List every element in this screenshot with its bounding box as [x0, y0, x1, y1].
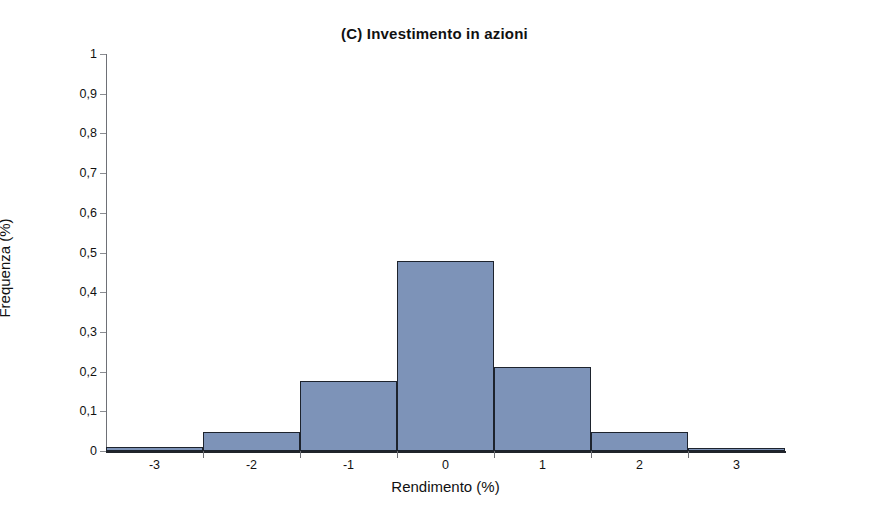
histogram-bar: [300, 381, 397, 451]
x-tick-label: -3: [149, 458, 160, 472]
histogram-bar: [688, 448, 785, 451]
x-tick-label: 2: [636, 458, 643, 472]
y-tick-mark: [100, 253, 106, 254]
y-tick-label: 0,4: [80, 285, 97, 299]
y-tick-mark: [100, 451, 106, 452]
y-tick-label: 0,9: [80, 87, 97, 101]
chart-title: (C) Investimento in azioni: [0, 25, 869, 42]
x-tick-label: 1: [539, 458, 546, 472]
x-tick-label: 0: [442, 458, 449, 472]
y-tick-label: 0,1: [80, 404, 97, 418]
x-tick-mark: [203, 451, 204, 458]
x-tick-label: -2: [246, 458, 257, 472]
x-tick-mark: [494, 451, 495, 458]
histogram-bar: [203, 432, 300, 451]
y-tick-mark: [100, 133, 106, 134]
y-tick-mark: [100, 372, 106, 373]
y-tick-label: 0,8: [80, 126, 97, 140]
x-axis-line: [106, 451, 786, 453]
y-tick-mark: [100, 173, 106, 174]
x-tick-mark: [397, 451, 398, 458]
plot-area: 00,10,20,30,40,50,60,70,80,91: [106, 54, 785, 451]
histogram-bar: [397, 261, 494, 451]
histogram-bar: [494, 367, 591, 451]
x-axis-title: Rendimento (%): [106, 478, 785, 495]
x-tick-label: 3: [733, 458, 740, 472]
y-tick-mark: [100, 213, 106, 214]
y-tick-mark: [100, 94, 106, 95]
y-tick-label: 0,3: [80, 325, 97, 339]
y-tick-label: 0,5: [80, 246, 97, 260]
x-tick-mark: [688, 451, 689, 458]
x-tick-mark: [300, 451, 301, 458]
y-tick-mark: [100, 54, 106, 55]
y-tick-mark: [100, 292, 106, 293]
x-tick-label: -1: [343, 458, 354, 472]
y-tick-mark: [100, 332, 106, 333]
histogram-bar: [591, 432, 688, 451]
y-tick-label: 0,6: [80, 206, 97, 220]
x-tick-mark: [591, 451, 592, 458]
y-tick-label: 0,7: [80, 166, 97, 180]
y-tick-label: 0,2: [80, 365, 97, 379]
y-tick-label: 0: [90, 444, 97, 458]
y-tick-mark: [100, 411, 106, 412]
histogram-bar: [106, 447, 203, 451]
y-axis-title: Frequenza (%): [0, 218, 13, 317]
y-tick-label: 1: [90, 47, 97, 61]
histogram-figure: (C) Investimento in azioni 00,10,20,30,4…: [0, 0, 869, 516]
